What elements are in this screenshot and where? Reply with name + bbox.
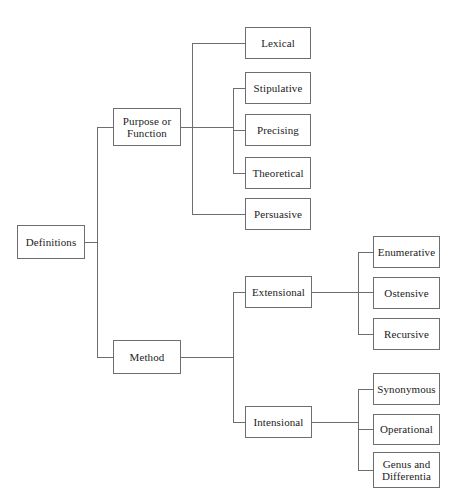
node-persuasive[interactable]: Persuasive xyxy=(245,198,311,230)
definitions-tree-diagram: Definitions Purpose or Function Method L… xyxy=(0,0,456,496)
node-recursive[interactable]: Recursive xyxy=(373,318,440,350)
node-label-stipulative: Stipulative xyxy=(251,82,306,94)
node-label-precising: Precising xyxy=(254,124,302,136)
node-genus-and-differentia[interactable]: Genus and Differentia xyxy=(373,452,440,488)
node-label-purpose-or-function: Purpose or Function xyxy=(120,115,174,140)
node-label-extensional: Extensional xyxy=(249,286,308,298)
node-label-definitions: Definitions xyxy=(23,236,80,248)
node-operational[interactable]: Operational xyxy=(373,414,440,445)
node-label-genus-and-differentia: Genus and Differentia xyxy=(379,458,434,483)
node-method[interactable]: Method xyxy=(113,340,181,374)
node-theoretical[interactable]: Theoretical xyxy=(245,157,311,189)
node-definitions[interactable]: Definitions xyxy=(17,225,85,259)
node-label-recursive: Recursive xyxy=(381,328,432,340)
node-stipulative[interactable]: Stipulative xyxy=(245,72,311,104)
node-label-synonymous: Synonymous xyxy=(374,383,438,395)
node-purpose-or-function[interactable]: Purpose or Function xyxy=(113,108,181,146)
node-label-operational: Operational xyxy=(377,423,436,435)
node-label-theoretical: Theoretical xyxy=(249,167,306,179)
node-label-enumerative: Enumerative xyxy=(375,246,438,258)
node-precising[interactable]: Precising xyxy=(245,114,311,146)
node-label-method: Method xyxy=(127,351,168,363)
node-label-persuasive: Persuasive xyxy=(251,208,305,220)
node-ostensive[interactable]: Ostensive xyxy=(373,277,440,309)
node-lexical[interactable]: Lexical xyxy=(245,27,311,59)
node-label-intensional: Intensional xyxy=(251,416,307,428)
node-enumerative[interactable]: Enumerative xyxy=(373,236,440,268)
node-synonymous[interactable]: Synonymous xyxy=(373,373,440,405)
node-intensional[interactable]: Intensional xyxy=(245,406,312,438)
node-label-ostensive: Ostensive xyxy=(381,287,431,299)
node-extensional[interactable]: Extensional xyxy=(245,276,312,308)
node-label-lexical: Lexical xyxy=(258,37,298,49)
